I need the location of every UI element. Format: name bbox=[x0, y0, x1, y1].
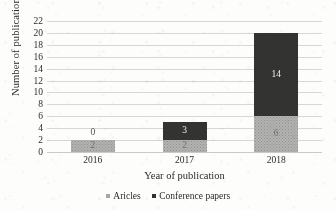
bar-value-conference-2016: 0 bbox=[71, 128, 115, 138]
legend-label-conference-papers: Conference papers bbox=[159, 191, 230, 201]
legend-item-conference-papers: Conference papers bbox=[152, 191, 230, 201]
y-tick-label-20: 20 bbox=[3, 28, 43, 38]
bar-segment-conference-2018[interactable]: 14 bbox=[254, 33, 298, 116]
bar-value-conference-2017: 3 bbox=[163, 126, 207, 136]
articles-swatch-icon bbox=[106, 194, 111, 199]
x-tick-label-2017: 2017 bbox=[139, 155, 231, 165]
bar-segment-articles-2018[interactable]: 6 bbox=[254, 116, 298, 152]
y-tick-label-12: 12 bbox=[3, 76, 43, 86]
y-tick-label-10: 10 bbox=[3, 87, 43, 97]
bar-segment-conference-2017[interactable]: 3 bbox=[163, 122, 207, 140]
legend-item-articles: Aricles bbox=[106, 191, 141, 201]
bar-value-articles-2017: 2 bbox=[163, 141, 207, 151]
bar-segment-articles-2016[interactable]: 2 bbox=[71, 140, 115, 152]
x-tick-label-2016: 2016 bbox=[47, 155, 139, 165]
y-tick-label-22: 22 bbox=[3, 16, 43, 26]
gridline-22 bbox=[47, 21, 322, 22]
y-tick-label-0: 0 bbox=[3, 147, 43, 157]
y-tick-label-18: 18 bbox=[3, 40, 43, 50]
chart-legend: Aricles Conference papers bbox=[0, 191, 336, 201]
plot-area: 02468101214161820220232146 bbox=[47, 21, 322, 152]
bar-value-articles-2016: 2 bbox=[71, 141, 115, 151]
y-tick-label-2: 2 bbox=[3, 135, 43, 145]
bar-value-articles-2018: 6 bbox=[254, 129, 298, 139]
conference-swatch-icon bbox=[152, 194, 157, 199]
y-tick-label-8: 8 bbox=[3, 99, 43, 109]
bar-2017[interactable]: 32 bbox=[163, 122, 207, 152]
y-tick-label-14: 14 bbox=[3, 64, 43, 74]
bar-2016[interactable]: 2 bbox=[71, 140, 115, 152]
bar-segment-articles-2017[interactable]: 2 bbox=[163, 140, 207, 152]
y-tick-label-16: 16 bbox=[3, 52, 43, 62]
x-tick-label-2018: 2018 bbox=[230, 155, 322, 165]
bar-value-conference-2018: 14 bbox=[254, 70, 298, 80]
legend-label-articles: Aricles bbox=[113, 191, 140, 201]
publications-stacked-bar-chart: Number of publications 02468101214161820… bbox=[0, 0, 336, 211]
bar-2018[interactable]: 146 bbox=[254, 33, 298, 152]
x-axis-title: Year of publication bbox=[47, 170, 322, 181]
y-tick-label-4: 4 bbox=[3, 123, 43, 133]
y-tick-label-6: 6 bbox=[3, 111, 43, 121]
gridline-0 bbox=[47, 152, 322, 153]
